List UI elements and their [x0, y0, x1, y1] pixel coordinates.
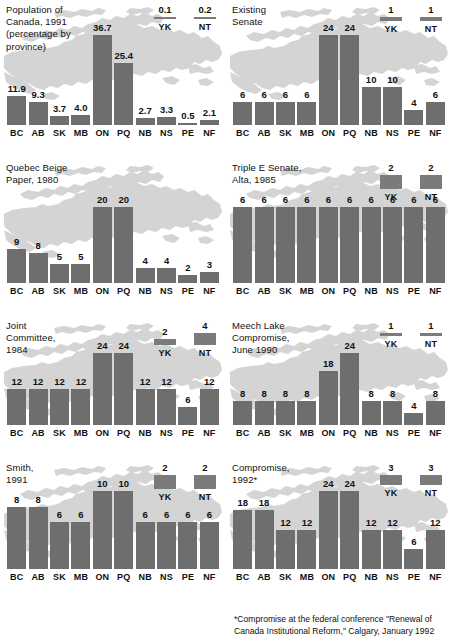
bar-value-label: 6 [411, 537, 416, 547]
axis-label-ab: AB [257, 428, 270, 438]
bar-value-label: 24 [118, 341, 129, 351]
territory-label: YK [385, 192, 398, 202]
bar [93, 35, 112, 125]
bar-value-label: 12 [366, 518, 377, 528]
bar [276, 401, 295, 425]
bar-column-pe: 4PE [403, 340, 424, 438]
bar-column-nf: 3NF [199, 194, 220, 296]
bar [404, 207, 423, 283]
axis-label-mb: MB [74, 572, 88, 582]
bar-value-label: 5 [78, 252, 83, 262]
bar [255, 207, 274, 283]
axis-label-sk: SK [53, 128, 66, 138]
bar-column-on: 24ON [318, 478, 339, 582]
bar-value-label: 20 [118, 195, 129, 205]
bar [157, 389, 176, 425]
axis-label-nb: NB [138, 572, 151, 582]
bar [340, 353, 359, 425]
territory-label: NT [199, 22, 211, 32]
territory-value: 3 [428, 462, 433, 473]
bar [200, 522, 219, 569]
axis-label-nb: NB [364, 286, 377, 296]
territory-column-nt: 0.2NT [192, 4, 218, 32]
bar-column-pq: 20PQ [113, 194, 134, 296]
territory-bar [154, 339, 176, 345]
bar [7, 507, 26, 569]
axis-label-ab: AB [257, 572, 270, 582]
bar-value-label: 24 [323, 479, 334, 489]
chart-panel-1: Population of Canada, 1991 (percentage b… [0, 0, 226, 158]
axis-label-ab: AB [31, 572, 44, 582]
bar-column-nf: 6NF [425, 194, 446, 296]
bar-column-pe: 6PE [403, 194, 424, 296]
territory-value: 4 [202, 320, 207, 331]
panel-title: Compromise, 1992* [232, 462, 290, 486]
bar-column-sk: 12SK [275, 478, 296, 582]
axis-label-nf: NF [203, 572, 215, 582]
bar [93, 353, 112, 425]
panel-title: Meech Lake Compromise, June 1990 [232, 320, 290, 357]
territory-column-nt: 4NT [192, 320, 218, 358]
territory-bar [154, 475, 176, 489]
bar [233, 207, 252, 283]
bar [71, 115, 90, 125]
axis-label-ab: AB [31, 428, 44, 438]
territory-column-yk: 2YK [152, 462, 178, 502]
axis-label-pe: PE [182, 572, 194, 582]
bar-value-label: 10 [97, 479, 108, 489]
bar [319, 491, 338, 569]
bar-value-label: 9 [14, 237, 19, 247]
axis-label-pq: PQ [117, 428, 130, 438]
bar [297, 530, 316, 569]
bar [362, 530, 381, 569]
bar-column-ns: 3.3NS [156, 22, 177, 138]
axis-label-pq: PQ [117, 128, 130, 138]
axis-label-ns: NS [386, 428, 399, 438]
bar [178, 522, 197, 569]
bar-column-pe: 2PE [177, 194, 198, 296]
axis-label-bc: BC [10, 572, 23, 582]
bar-value-label: 12 [76, 377, 87, 387]
bar-value-label: 6 [57, 510, 62, 520]
bar-column-mb: 4.0MB [70, 22, 91, 138]
bar [404, 413, 423, 425]
bar-value-label: 24 [323, 23, 334, 33]
bar-value-label: 20 [97, 195, 108, 205]
axis-label-nb: NB [364, 428, 377, 438]
bar-column-mb: 6MB [296, 194, 317, 296]
axis-label-nb: NB [138, 428, 151, 438]
territory-column-nt: 2NT [418, 162, 444, 202]
territory-legend: 1YK1NT [378, 320, 444, 349]
bar-column-pq: 6PQ [339, 194, 360, 296]
bar [383, 530, 402, 569]
bar [29, 507, 48, 569]
bar [200, 272, 219, 283]
territory-value: 0.1 [158, 4, 171, 15]
axis-label-sk: SK [279, 128, 292, 138]
territory-label: NT [425, 24, 437, 34]
territory-column-yk: 3YK [378, 462, 404, 498]
bar-column-nb: 6NB [360, 194, 381, 296]
territory-legend: 2YK2NT [152, 462, 218, 502]
bar [136, 268, 155, 283]
chart-panel-2: Existing Senate1YK1NT6BC6AB6SK6MB24ON24P… [226, 0, 452, 158]
bar-value-label: 6 [283, 90, 288, 100]
bar-value-label: 12 [33, 377, 44, 387]
bar-value-label: 6 [185, 510, 190, 520]
bar [71, 264, 90, 283]
axis-label-sk: SK [279, 286, 292, 296]
bar-value-label: 8 [390, 389, 395, 399]
bar-column-pq: 24PQ [339, 340, 360, 438]
bar-column-mb: 12MB [70, 340, 91, 438]
bar-value-label: 6 [326, 195, 331, 205]
territory-bar [420, 17, 442, 21]
axis-label-sk: SK [53, 286, 66, 296]
bar-column-nf: 2.1NF [199, 22, 220, 138]
axis-label-bc: BC [236, 428, 249, 438]
bar [157, 117, 176, 125]
bar [297, 102, 316, 125]
bar-column-on: 10ON [92, 478, 113, 582]
bar-value-label: 6 [304, 195, 309, 205]
bar-column-mb: 6MB [296, 22, 317, 138]
bar-value-label: 8 [14, 495, 19, 505]
